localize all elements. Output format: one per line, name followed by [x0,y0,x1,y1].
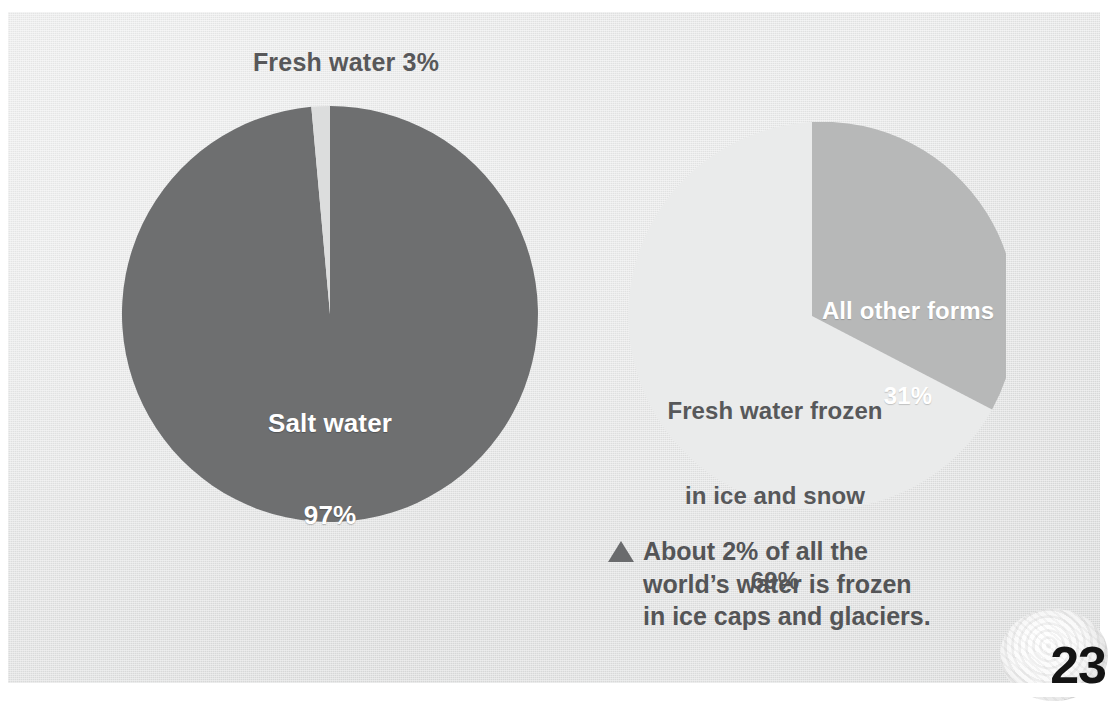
caption-line-1: About 2% of all the [643,537,868,565]
caption-block: About 2% of all the world’s water is fro… [608,535,1028,633]
slice-label-frozen-line1: Fresh water frozen [630,397,920,425]
page-number: 23 [1050,635,1106,695]
slice-label-fresh-water: Fresh water 3% [196,48,496,77]
pie-chart-fresh-water-breakdown: All other forms 31% Fresh water frozen i… [618,122,1006,510]
pie-chart-all-water: Salt water 97% [118,104,542,524]
slice-label-frozen-line2: in ice and snow [630,482,920,510]
slice-value-salt-water: 97% [230,500,430,531]
triangle-up-icon [608,541,634,562]
slice-label-salt-water: Salt water 97% [230,347,430,592]
slice-label-salt-water-text: Salt water [230,408,430,439]
page-bottom-margin [0,683,1100,697]
slice-label-all-other-forms-text: All other forms [793,297,1023,325]
caption-line-3: in ice caps and glaciers. [643,600,1028,633]
caption-line-2: world’s water is frozen [643,568,1028,601]
